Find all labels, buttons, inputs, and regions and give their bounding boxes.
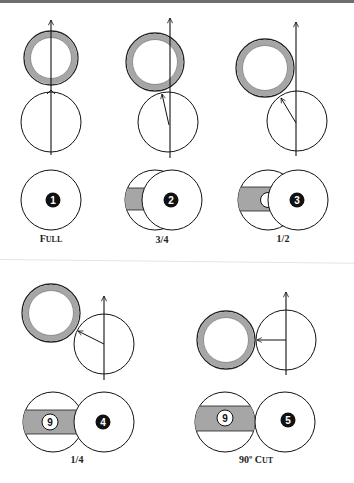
object-ball-ghost-ring: [126, 33, 184, 91]
panel-ninety-cut: 9 5 90º CUT: [193, 292, 316, 465]
panel-label: 90º CUT: [239, 454, 274, 465]
panel-label: 1/2: [277, 233, 290, 244]
contact-arrow: [281, 98, 296, 123]
object-ball-ghost-ring: [22, 284, 80, 342]
cue-ball-outline: [267, 91, 327, 151]
ball-number-badge: 1: [46, 193, 61, 208]
panel-label: 3/4: [156, 234, 169, 245]
nine-ball: 9: [193, 392, 257, 452]
panel-full: 1 FULL: [21, 20, 81, 244]
svg-text:2: 2: [168, 195, 174, 206]
svg-text:9: 9: [222, 413, 228, 424]
object-ball-ghost-ring: [197, 311, 255, 369]
svg-text:9: 9: [47, 417, 53, 428]
svg-text:5: 5: [285, 415, 291, 426]
ball-number-badge: 4: [96, 415, 111, 430]
ball-number-badge: 3: [290, 193, 305, 208]
ball-number-badge: 2: [164, 193, 179, 208]
panel-label: 1/4: [71, 454, 84, 465]
object-ball-ghost-ring: [236, 39, 294, 97]
panel-quarter: 9 4 1/4: [20, 284, 134, 465]
contact-arrow: [78, 331, 104, 344]
ball-number-badge: 5: [281, 413, 296, 428]
contact-arrow: [162, 94, 169, 125]
panel-label: FULL: [40, 233, 63, 244]
svg-text:4: 4: [100, 417, 106, 428]
panel-half: 3 1/2: [234, 22, 328, 244]
cut-shot-diagram: 1 FULL 2 3/4: [0, 0, 354, 483]
panel-three-quarter: 2 3/4: [120, 18, 202, 245]
svg-text:1: 1: [50, 195, 56, 206]
svg-text:3: 3: [294, 195, 300, 206]
